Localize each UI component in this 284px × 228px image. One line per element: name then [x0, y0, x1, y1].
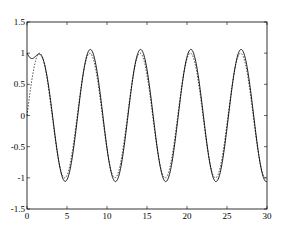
x-tick-label: 15	[143, 211, 153, 221]
y-tick-label: 0	[21, 111, 26, 121]
y-tick-label: -0.5	[11, 142, 26, 152]
x-tick-label: 25	[223, 211, 233, 221]
y-tick-label: -1.5	[11, 204, 26, 214]
y-tick-label: 0.5	[14, 79, 26, 89]
x-tick-label: 10	[103, 211, 113, 221]
x-tick-label: 5	[65, 211, 70, 221]
axes-frame	[27, 22, 267, 209]
x-tick-label: 30	[263, 211, 273, 221]
x-tick-label: 0	[25, 211, 30, 221]
x-tick-label: 20	[183, 211, 193, 221]
y-tick-label: 1	[21, 48, 26, 58]
y-tick-label: 1.5	[14, 17, 26, 27]
plot-area: 051015202530 -1.5-1-0.500.511.5	[11, 17, 272, 221]
line-chart: 051015202530 -1.5-1-0.500.511.5	[0, 0, 284, 228]
y-tick-label: -1	[18, 173, 26, 183]
